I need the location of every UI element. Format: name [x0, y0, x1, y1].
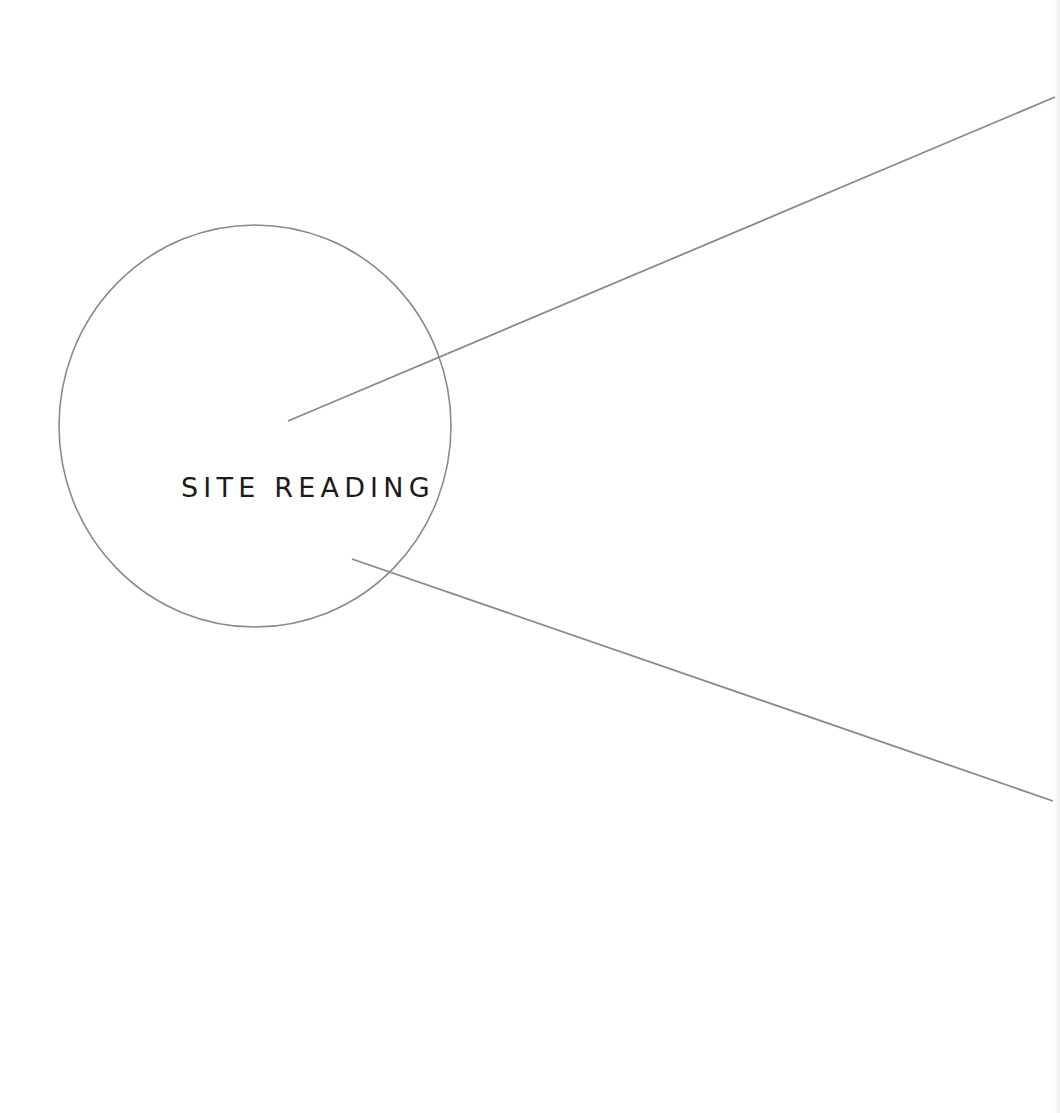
lower-ray-line — [352, 559, 1053, 801]
site-reading-title: SITE READING — [181, 470, 435, 506]
page-edge-shadow — [1054, 0, 1060, 1113]
circle-outline — [59, 225, 451, 627]
diagram-artwork — [0, 0, 1060, 1113]
upper-ray-line — [288, 97, 1055, 421]
